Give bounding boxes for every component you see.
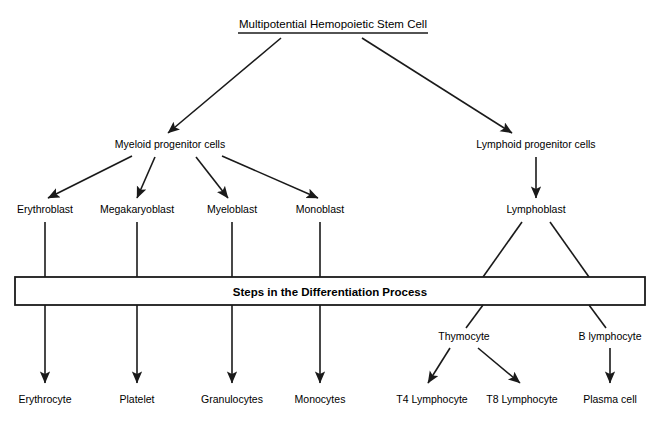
plasma-cell-label: Plasma cell <box>583 393 637 405</box>
line-lymphoblast-to-blymphocyte-upper <box>550 222 589 277</box>
arrow-myeloid-to-monoblast <box>222 156 318 198</box>
line-banner-to-blymphocyte <box>589 305 606 328</box>
line-banner-to-thymocyte <box>466 305 483 328</box>
line-lymphoblast-to-thymocyte-upper <box>483 222 522 277</box>
erythroblast-label: Erythroblast <box>17 203 73 215</box>
megakaryoblast-label: Megakaryoblast <box>100 203 174 215</box>
erythrocyte-label: Erythrocyte <box>18 393 71 405</box>
lymphoblast-label: Lymphoblast <box>506 203 565 215</box>
arrow-myeloid-to-erythroblast <box>48 156 132 198</box>
arrow-stemcell-to-myeloid <box>168 38 281 133</box>
stem-cell-label: Multipotential Hemopoietic Stem Cell <box>239 18 427 30</box>
myeloid-progenitor-label: Myeloid progenitor cells <box>115 138 225 150</box>
monocytes-label: Monocytes <box>295 393 346 405</box>
thymocyte-label: Thymocyte <box>438 330 490 342</box>
monoblast-label: Monoblast <box>296 203 345 215</box>
arrow-thymocyte-to-t8 <box>478 348 520 383</box>
granulocytes-label: Granulocytes <box>201 393 263 405</box>
lymphoid-progenitor-label: Lymphoid progenitor cells <box>476 138 595 150</box>
differentiation-banner-label: Steps in the Differentiation Process <box>233 286 427 298</box>
b-lymphocyte-label: B lymphocyte <box>578 330 641 342</box>
t8-lymphocyte-label: T8 Lymphocyte <box>486 393 558 405</box>
arrow-stemcell-to-lymphoid <box>362 38 512 133</box>
myeloblast-label: Myeloblast <box>207 203 257 215</box>
arrow-myeloid-to-megakaryoblast <box>137 157 155 198</box>
t4-lymphocyte-label: T4 Lymphocyte <box>396 393 468 405</box>
arrow-thymocyte-to-t4 <box>428 348 450 383</box>
platelet-label: Platelet <box>119 393 154 405</box>
arrow-myeloid-to-myeloblast <box>196 157 228 198</box>
hematopoiesis-diagram: Multipotential Hemopoietic Stem Cell Mye… <box>0 0 660 421</box>
diagram-canvas: Multipotential Hemopoietic Stem Cell Mye… <box>0 0 660 421</box>
